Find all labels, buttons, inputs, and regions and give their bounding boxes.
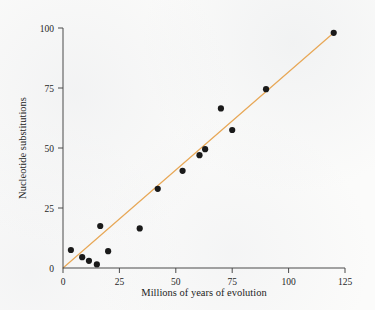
data-point: [229, 127, 235, 133]
x-axis-title: Millions of years of evolution: [141, 287, 267, 298]
x-tick-label: 125: [338, 277, 353, 287]
data-point: [331, 30, 337, 36]
data-point: [218, 105, 224, 111]
y-tick-label: 25: [45, 204, 55, 214]
x-tick-label: 75: [227, 277, 237, 287]
scatter-plot: 0255075100125 0255075100 Millions of yea…: [0, 0, 375, 310]
x-tick-label: 100: [281, 277, 296, 287]
data-point: [179, 168, 185, 174]
data-point: [94, 261, 100, 267]
data-point: [202, 146, 208, 152]
y-tick-label: 75: [45, 84, 55, 94]
x-tick-label: 25: [115, 277, 125, 287]
y-axis-title: Nucleotide substitutions: [17, 97, 28, 199]
data-point: [79, 254, 85, 260]
x-tick-label: 50: [171, 277, 181, 287]
y-tick-label: 100: [40, 24, 55, 34]
data-point: [105, 248, 111, 254]
data-point: [97, 223, 103, 229]
trend-line-group: [63, 33, 334, 268]
y-tick-label: 50: [45, 144, 55, 154]
data-point: [137, 225, 143, 231]
data-point: [196, 152, 202, 158]
y-axis-ticks: 0255075100: [40, 24, 63, 274]
x-tick-label: 0: [61, 277, 66, 287]
regression-line: [63, 33, 334, 268]
data-point: [86, 258, 92, 264]
data-point: [263, 86, 269, 92]
data-point: [155, 186, 161, 192]
data-point: [68, 247, 74, 253]
figure-container: 0255075100125 0255075100 Millions of yea…: [0, 0, 375, 310]
y-tick-label: 0: [49, 264, 54, 274]
x-axis-ticks: 0255075100125: [61, 268, 353, 287]
